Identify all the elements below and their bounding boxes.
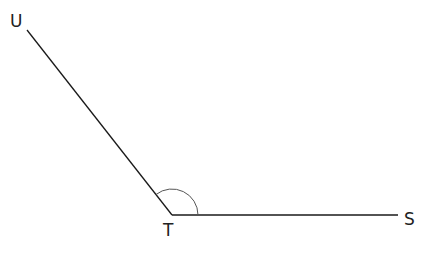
angle-diagram: [0, 0, 424, 254]
point-label-u: U: [10, 13, 22, 30]
ray-tu: [27, 30, 172, 215]
point-label-t: T: [163, 222, 173, 239]
point-label-s: S: [404, 211, 415, 228]
